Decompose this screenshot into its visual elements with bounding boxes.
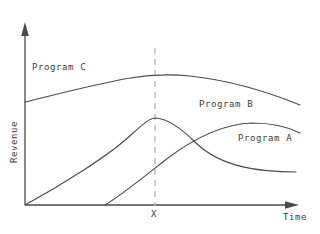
chart-canvas <box>0 0 320 234</box>
axes-group <box>21 22 299 209</box>
series-label-program-c: Program C <box>32 62 86 72</box>
x-axis-label: Time <box>283 212 307 222</box>
curve-program-a <box>25 118 296 205</box>
revenue-over-time-chart: Program C Program B Program A Revenue Ti… <box>0 0 320 234</box>
x-axis-arrowhead <box>285 201 299 209</box>
series-label-program-a: Program A <box>238 133 292 143</box>
x-axis-tick-label-x: X <box>151 209 157 219</box>
curve-program-c <box>25 75 300 105</box>
series-label-program-b: Program B <box>199 99 253 109</box>
y-axis-label: Revenue <box>9 115 19 169</box>
y-axis-arrowhead <box>21 22 29 36</box>
